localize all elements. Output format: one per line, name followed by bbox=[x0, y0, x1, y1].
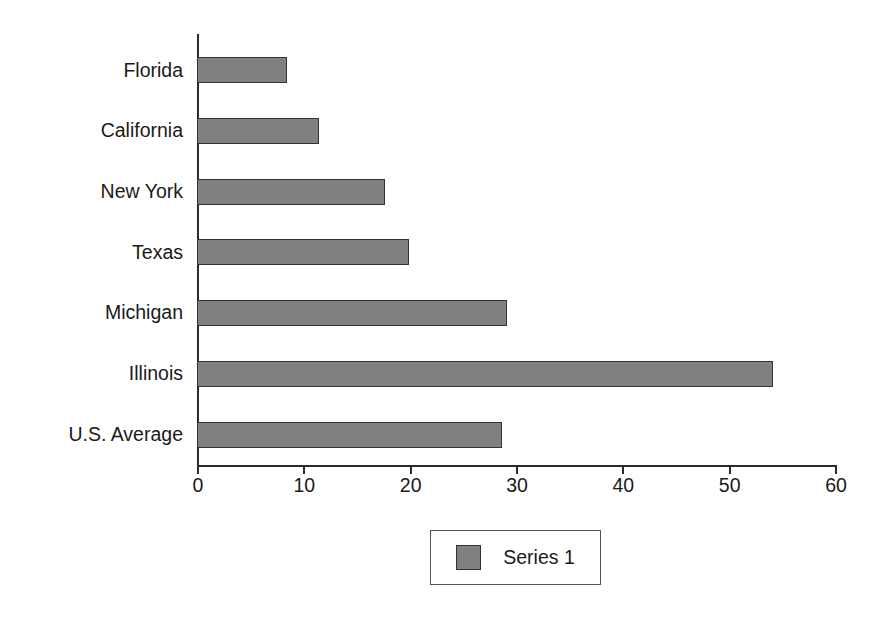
category-label: Texas bbox=[132, 243, 197, 263]
x-tick bbox=[729, 465, 731, 474]
bar-new-york bbox=[197, 179, 385, 205]
x-tick bbox=[622, 465, 624, 474]
x-tick-label: 20 bbox=[400, 476, 422, 496]
category-label: California bbox=[101, 121, 197, 141]
x-tick bbox=[410, 465, 412, 474]
x-tick-label: 10 bbox=[293, 476, 315, 496]
category-label: U.S. Average bbox=[68, 425, 197, 445]
x-tick-label: 60 bbox=[825, 476, 847, 496]
bar-row: Illinois bbox=[197, 344, 835, 405]
legend-swatch-series-1 bbox=[456, 545, 481, 570]
legend-label-series-1: Series 1 bbox=[503, 548, 575, 568]
category-label: Illinois bbox=[129, 364, 197, 384]
bar-row: Texas bbox=[197, 222, 835, 283]
x-tick bbox=[516, 465, 518, 474]
bar-row: U.S. Average bbox=[197, 404, 835, 465]
bar-illinois bbox=[197, 361, 773, 387]
bar-chart: FloridaCaliforniaNew YorkTexasMichiganIl… bbox=[0, 0, 891, 621]
x-tick-label: 30 bbox=[506, 476, 528, 496]
category-label: New York bbox=[101, 182, 197, 202]
bar-row: Michigan bbox=[197, 283, 835, 344]
x-tick bbox=[835, 465, 837, 474]
chart-legend: Series 1 bbox=[430, 530, 601, 585]
category-label: Florida bbox=[123, 61, 197, 81]
bar-rows: FloridaCaliforniaNew YorkTexasMichiganIl… bbox=[197, 40, 835, 465]
bar-row: Florida bbox=[197, 40, 835, 101]
bar-michigan bbox=[197, 300, 507, 326]
bar-row: New York bbox=[197, 161, 835, 222]
category-label: Michigan bbox=[105, 303, 197, 323]
x-tick-label: 40 bbox=[612, 476, 634, 496]
bar-u-s-average bbox=[197, 422, 502, 448]
x-tick-label: 0 bbox=[193, 476, 204, 496]
bar-florida bbox=[197, 57, 287, 83]
x-tick-label: 50 bbox=[719, 476, 741, 496]
x-tick bbox=[197, 465, 199, 474]
x-tick bbox=[303, 465, 305, 474]
bar-california bbox=[197, 118, 319, 144]
bar-row: California bbox=[197, 101, 835, 162]
bar-texas bbox=[197, 239, 409, 265]
